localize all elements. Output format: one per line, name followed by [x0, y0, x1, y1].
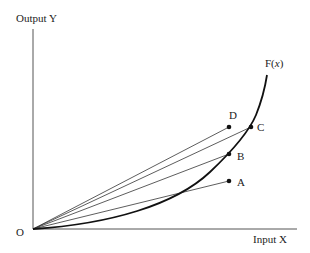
point-b: [227, 152, 232, 157]
point-c-label: C: [257, 121, 264, 133]
point-d: [227, 125, 232, 130]
ray-to-b: [33, 154, 229, 229]
ray-to-a: [33, 181, 229, 229]
y-axis-label: Output Y: [16, 12, 57, 24]
point-a: [227, 179, 232, 184]
point-d-label: D: [229, 109, 237, 121]
production-diagram: Output Y Input X O F(x) A B C D: [0, 0, 310, 253]
origin-label: O: [16, 226, 24, 238]
curve-label-prefix: F(: [265, 57, 275, 70]
x-axis-label: Input X: [253, 233, 287, 245]
curve-label-suffix: ): [280, 57, 284, 70]
production-curve: [33, 75, 267, 229]
point-c: [249, 125, 254, 130]
curve-label: F(x): [265, 57, 284, 70]
ray-to-c: [33, 127, 251, 229]
point-b-label: B: [237, 150, 244, 162]
point-a-label: A: [237, 176, 245, 188]
